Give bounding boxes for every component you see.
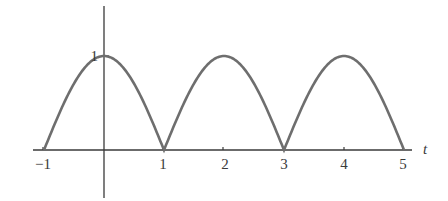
chart-canvas: −1 1 2 3 4 5 1 t (0, 0, 448, 201)
x-axis-label: t (423, 141, 428, 157)
x-tick-label: −1 (35, 156, 51, 172)
x-tick-label: 5 (399, 156, 407, 172)
y-tick-label: 1 (91, 48, 99, 64)
x-tick-label: 2 (221, 156, 229, 172)
x-tick-label: 4 (340, 156, 348, 172)
x-tick-label: 3 (280, 156, 288, 172)
x-tick-label: 1 (159, 156, 167, 172)
data-curve (44, 56, 404, 150)
